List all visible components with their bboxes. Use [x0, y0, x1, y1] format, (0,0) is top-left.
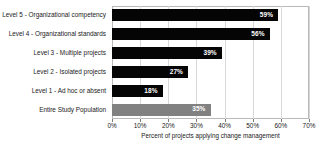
bar-value-label: 39% [203, 50, 221, 57]
category-label: Level 5 - Organizational competency [2, 12, 106, 18]
category-label: Level 2 - Isolated projects [33, 69, 106, 75]
bar-chart: Level 5 - Organizational competencyLevel… [0, 0, 319, 146]
bar[interactable]: 56% [112, 28, 270, 40]
bar-value-label: 59% [260, 12, 278, 19]
bar-value-label: 35% [192, 106, 210, 113]
x-tick-label: 30% [190, 123, 203, 129]
category-label: Level 1 - Ad hoc or absent [32, 88, 106, 94]
category-label: Entire Study Population [39, 106, 106, 112]
bar[interactable]: 59% [112, 9, 278, 21]
bar-row[interactable]: 56% [112, 28, 309, 40]
category-label: Level 3 - Multiple projects [34, 50, 106, 56]
x-tick-label: 0% [107, 123, 116, 129]
x-tick-label: 40% [218, 123, 231, 129]
category-axis-labels: Level 5 - Organizational competencyLevel… [0, 6, 109, 119]
x-axis-ticks: 0%10%20%30%40%50%60%70% [112, 119, 309, 131]
x-tick-label: 50% [246, 123, 259, 129]
x-axis-title: Percent of projects applying change mana… [112, 133, 309, 139]
bar-rows: 59%56%39%27%18%35% [112, 6, 309, 119]
bar-value-label: 56% [251, 31, 269, 38]
x-tick-label: 60% [274, 123, 287, 129]
x-tick-label: 20% [162, 123, 175, 129]
bar-value-label: 27% [170, 69, 188, 76]
bar[interactable]: 18% [112, 85, 163, 97]
bar[interactable]: 35% [112, 104, 211, 116]
bar-row[interactable]: 35% [112, 104, 309, 116]
bar-row[interactable]: 27% [112, 66, 309, 78]
bar-row[interactable]: 39% [112, 47, 309, 59]
bar[interactable]: 39% [112, 47, 222, 59]
plot-area-wrapper: 59%56%39%27%18%35% [112, 6, 309, 119]
bar[interactable]: 27% [112, 66, 188, 78]
category-label: Level 4 - Organizational standards [9, 31, 106, 37]
x-tick-label: 70% [303, 123, 316, 129]
gridline [309, 6, 310, 119]
bar-row[interactable]: 59% [112, 9, 309, 21]
bar-value-label: 18% [144, 88, 162, 95]
x-tick-label: 10% [134, 123, 147, 129]
bar-row[interactable]: 18% [112, 85, 309, 97]
